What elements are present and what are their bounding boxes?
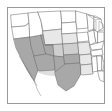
state-mo[interactable]: Missouri bbox=[78, 42, 91, 55]
state-ia[interactable]: Iowa bbox=[77, 32, 89, 42]
state-ne[interactable]: Nebraska bbox=[62, 33, 78, 44]
state-mn[interactable]: Minnesota bbox=[76, 11, 88, 29]
states-layer: WashingtonOregonCaliforniaNevadaIdahoMon… bbox=[11, 11, 104, 91]
baja-peninsula-icon bbox=[34, 81, 41, 96]
state-fl[interactable]: Florida bbox=[98, 71, 104, 82]
us-choropleth-map[interactable]: WashingtonOregonCaliforniaNevadaIdahoMon… bbox=[8, 8, 104, 103]
state-nd[interactable]: North Dakota bbox=[61, 11, 76, 23]
state-sd[interactable]: South Dakota bbox=[62, 22, 77, 34]
state-la[interactable]: Louisiana bbox=[81, 64, 93, 75]
state-ga[interactable]: Georgia bbox=[102, 56, 104, 71]
state-wy[interactable]: Wyoming bbox=[43, 29, 63, 45]
state-al[interactable]: Alabama bbox=[97, 56, 102, 71]
state-ok[interactable]: Oklahoma bbox=[64, 54, 80, 64]
state-ks[interactable]: Kansas bbox=[63, 43, 79, 55]
map-frame-border: WashingtonOregonCaliforniaNevadaIdahoMon… bbox=[7, 7, 105, 104]
state-ar[interactable]: Arkansas bbox=[80, 54, 92, 65]
map-thumbnail-figure: WashingtonOregonCaliforniaNevadaIdahoMon… bbox=[0, 0, 112, 111]
